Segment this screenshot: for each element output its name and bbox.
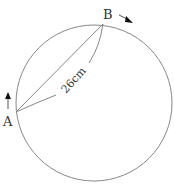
arrow-a-head-icon [5, 92, 11, 99]
dimension-arc-upper [89, 24, 103, 63]
circle-diagram: 26cm B A [0, 0, 174, 184]
arrow-b-head-icon [125, 16, 133, 23]
dimension-arc-lower [16, 95, 56, 112]
point-b-label: B [103, 7, 113, 22]
chord-ab [16, 24, 103, 112]
point-a-label: A [2, 114, 13, 129]
circle [16, 25, 172, 181]
chord-length-label: 26cm [59, 64, 90, 96]
